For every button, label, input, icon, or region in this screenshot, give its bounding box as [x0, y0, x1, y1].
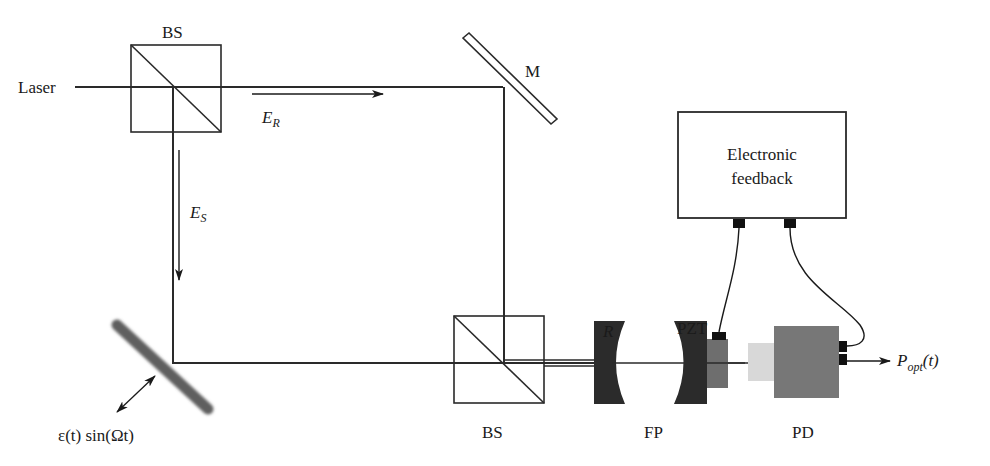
cavity-mirror-label: R — [602, 322, 614, 341]
reference-field-label: ER — [261, 108, 280, 130]
modulation-arrow — [117, 376, 155, 412]
photodetector-body — [774, 326, 839, 398]
photodetector-window — [748, 343, 774, 381]
electronic-feedback-box — [678, 112, 846, 218]
beam-splitter-top-label: BS — [162, 23, 183, 42]
vibrating-mirror — [117, 325, 208, 409]
pzt-label: PZT — [677, 319, 708, 338]
beam-splitter-top — [131, 45, 221, 132]
mirror-m-label: M — [525, 62, 540, 81]
mirror-m — [463, 33, 557, 124]
photodetector-connector-bottom — [839, 354, 847, 365]
pzt-connector — [712, 332, 726, 340]
laser-label: Laser — [18, 78, 56, 97]
signal-field-label: ES — [189, 203, 206, 225]
photodetector-connector-top — [839, 341, 847, 352]
beam-splitter-bottom-label: BS — [482, 423, 503, 442]
feedback-label-line1: Electronic — [727, 145, 797, 164]
feedback-connector-left — [733, 219, 745, 228]
feedback-connector-right — [784, 219, 796, 228]
photodetector-label: PD — [792, 423, 814, 442]
pzt-cable — [719, 228, 739, 332]
output-signal-label: Popt(t) — [896, 351, 939, 374]
modulation-label: ε(t) sin(Ωt) — [58, 426, 134, 445]
optical-setup-diagram: Laser BS ER M ES ε(t) sin(Ωt) BS R PZT — [0, 0, 990, 466]
fabry-perot-label: FP — [644, 423, 663, 442]
feedback-label-line2: feedback — [731, 169, 793, 188]
